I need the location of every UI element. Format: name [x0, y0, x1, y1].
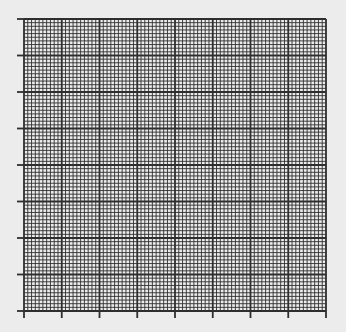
- graph-paper-grid: [0, 0, 346, 332]
